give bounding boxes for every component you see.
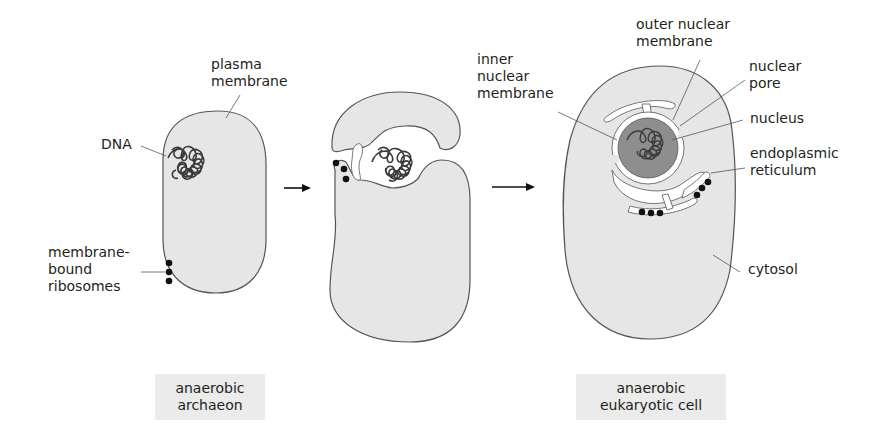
label-membrane-bound-ribosomes: membrane- bound ribosomes: [48, 244, 130, 295]
caption-eukaryotic-cell: anaerobic eukaryotic cell: [576, 374, 726, 420]
eukaryotic-cell: [558, 60, 745, 339]
label-nuclear-pore: nuclear pore: [749, 58, 801, 92]
caption-archaeon: anaerobic archaeon: [155, 374, 265, 420]
label-cytosol: cytosol: [748, 261, 798, 278]
arrow-icon: [492, 183, 535, 191]
label-nucleus: nucleus: [750, 110, 804, 127]
label-inner-nuclear-membrane: inner nuclear membrane: [477, 51, 554, 102]
dna-icon: [372, 148, 412, 182]
label-endoplasmic-reticulum: endoplasmic reticulum: [750, 145, 839, 179]
arrow-icon: [284, 184, 311, 192]
archaeon-cell: [141, 95, 266, 293]
label-outer-nuclear-membrane: outer nuclear membrane: [636, 16, 730, 50]
label-plasma-membrane: plasma membrane: [211, 56, 288, 90]
intermediate-cell: [330, 92, 470, 342]
label-dna: DNA: [101, 136, 132, 153]
ribosome-icon: [166, 260, 173, 285]
